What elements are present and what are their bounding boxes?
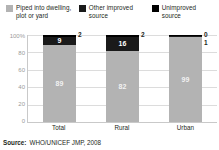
segment-urban-piped: 99 <box>169 37 202 122</box>
square-swatch-icon <box>6 5 13 12</box>
stacked-bar-chart-figure: Piped into dwelling, plot or yard Other … <box>0 0 219 150</box>
segment-value-total-unimproved: 2 <box>78 32 82 39</box>
y-tick-60: 60 <box>18 67 25 73</box>
segment-value-urban-piped: 99 <box>182 76 190 83</box>
segment-value-total-other-improved: 9 <box>58 37 62 44</box>
y-tick-80: 80 <box>18 50 25 56</box>
square-swatch-icon <box>79 5 86 12</box>
bar-group: 2 9 89 2 16 <box>28 35 217 122</box>
segment-total-other-improved: 9 <box>43 37 76 45</box>
bar-rural[interactable]: 2 16 82 <box>106 35 139 122</box>
x-label-rural: Rural <box>105 124 138 134</box>
segment-total-piped: 89 <box>43 45 76 122</box>
segment-value-rural-unimproved: 2 <box>141 32 145 39</box>
plot-area-wrapper: 100% 80 60 40 20 0 2 9 <box>0 31 219 132</box>
x-label-total: Total <box>42 124 75 134</box>
x-label-urban: Urban <box>169 124 202 134</box>
source-label: Source: <box>3 139 26 146</box>
x-axis: Total Rural Urban <box>27 124 217 134</box>
y-tick-40: 40 <box>18 84 25 90</box>
y-tick-100: 100% <box>10 33 25 39</box>
y-tick-20: 20 <box>18 101 25 107</box>
plot-area: 2 9 89 2 16 <box>27 35 217 123</box>
legend-item-piped: Piped into dwelling, plot or yard <box>6 4 74 19</box>
y-tick-0: 0 <box>22 118 25 124</box>
legend-item-unimproved: Unimproved source <box>152 4 217 19</box>
legend-item-other-improved: Other improved source <box>79 4 147 19</box>
segment-rural-piped: 82 <box>106 51 139 122</box>
legend-label-other-improved: Other improved source <box>89 4 147 19</box>
legend-label-unimproved: Unimproved source <box>162 4 217 19</box>
segment-value-urban-other-improved: 1 <box>204 40 208 47</box>
source-caption: Source:WHO/UNICEF JMP, 2008 <box>3 139 101 147</box>
segment-rural-other-improved: 16 <box>106 37 139 51</box>
bar-urban[interactable]: 0 1 99 <box>169 35 202 122</box>
segment-value-rural-piped: 82 <box>119 83 127 90</box>
square-swatch-icon <box>152 5 159 12</box>
segment-value-urban-unimproved: 0 <box>204 32 208 39</box>
source-text: WHO/UNICEF JMP, 2008 <box>29 139 101 146</box>
segment-value-total-piped: 89 <box>56 80 64 87</box>
bar-total[interactable]: 2 9 89 <box>43 35 76 122</box>
legend-label-piped: Piped into dwelling, plot or yard <box>16 4 74 19</box>
y-axis: 100% 80 60 40 20 0 <box>0 31 27 132</box>
segment-value-rural-other-improved: 16 <box>119 40 127 47</box>
chart-legend: Piped into dwelling, plot or yard Other … <box>0 0 219 31</box>
